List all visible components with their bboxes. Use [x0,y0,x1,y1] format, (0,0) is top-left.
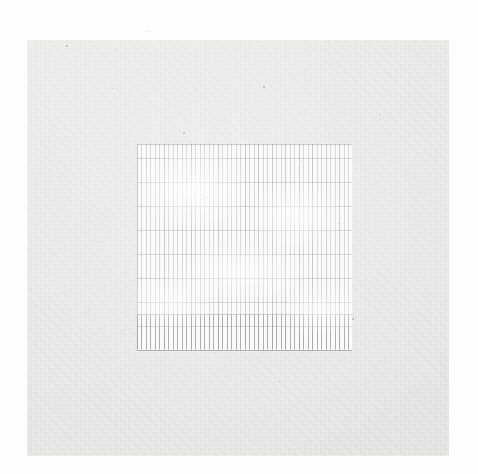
column-rule-lines [137,144,352,351]
bottom-tick-mark-band [137,315,352,349]
table-bottom-divider-rule [137,314,352,315]
row-rule-lines [137,144,352,351]
scan-speck [148,31,149,32]
scanned-document-canvas: Extremely faded scan of a ruled ledger /… [0,0,478,474]
ruled-table-region [137,144,352,351]
ink-fade-mask [137,144,352,351]
table-header-rule [137,144,352,145]
paper-panel [27,40,449,456]
table-footer-rule [137,350,352,351]
